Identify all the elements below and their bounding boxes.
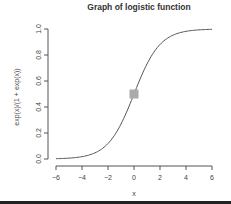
chart-title: Graph of logistic function [87, 2, 190, 12]
x-axis: −6−4−20246 [52, 166, 214, 181]
y-tick-label: 0.2 [35, 128, 42, 138]
x-tick-label: −2 [104, 174, 112, 181]
y-axis-label: exp(x)/(1 + exp(x)) [13, 68, 21, 125]
midpoint-marker [130, 90, 139, 99]
x-tick-label: −6 [52, 174, 60, 181]
y-tick-label: 1.0 [35, 24, 42, 34]
y-axis: 0.00.20.40.60.81.0 [35, 24, 48, 164]
x-tick-label: 4 [184, 174, 188, 181]
x-tick-label: 0 [132, 174, 136, 181]
y-tick-label: 0.0 [35, 154, 42, 164]
bottom-border [0, 201, 231, 204]
logistic-chart: Graph of logistic function 0.00.20.40.60… [0, 0, 231, 204]
y-tick-label: 0.6 [35, 76, 42, 86]
y-tick-label: 0.4 [35, 102, 42, 112]
x-tick-label: 6 [210, 174, 214, 181]
x-axis-label: x [132, 190, 136, 197]
x-tick-label: −4 [78, 174, 86, 181]
y-tick-label: 0.8 [35, 50, 42, 60]
x-tick-label: 2 [158, 174, 162, 181]
